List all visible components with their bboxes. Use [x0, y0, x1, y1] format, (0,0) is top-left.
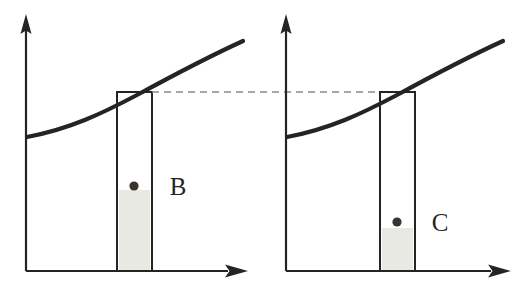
panel-b-x-axis-arrow-icon: [225, 265, 248, 278]
figure-container: B C: [0, 0, 524, 299]
level-marker-b: [129, 181, 138, 190]
shaded-fill-b: [119, 190, 150, 270]
panel-b-curve: [27, 41, 243, 137]
panel-c: C: [281, 14, 512, 278]
panel-c-x-axis-arrow-icon: [488, 265, 511, 278]
panel-b-label: B: [170, 173, 187, 200]
level-marker-c: [392, 217, 401, 226]
panel-b: B: [21, 14, 249, 278]
panel-c-label: C: [432, 209, 449, 236]
shaded-fill-c: [382, 228, 413, 270]
figure-diagram: B C: [0, 0, 524, 299]
panel-c-curve: [287, 41, 503, 137]
